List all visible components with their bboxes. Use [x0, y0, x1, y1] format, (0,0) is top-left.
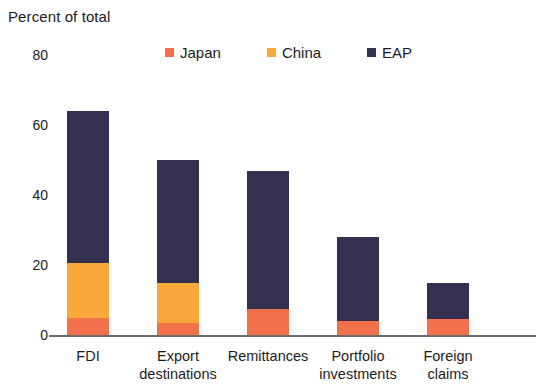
bar-segment-eap[interactable] — [157, 160, 199, 283]
category-label-line1: Remittances — [228, 348, 309, 364]
category-label-line1: Portfolio — [331, 348, 384, 364]
category-label-line1: Foreign — [423, 348, 472, 364]
bar-group[interactable]: Portfolioinvestments — [337, 0, 379, 392]
x-axis-category-label: Foreignclaims — [423, 347, 472, 383]
bar-segment-eap[interactable] — [427, 283, 469, 320]
chart-container: Percent of total Japan China EAP 0204060… — [0, 0, 541, 392]
bar-stack — [247, 171, 289, 336]
category-label-line2: investments — [319, 365, 396, 383]
y-axis-tick-label: 0 — [6, 328, 48, 342]
category-label-line2: destinations — [139, 365, 216, 383]
bar-group[interactable]: Exportdestinations — [157, 0, 199, 392]
bar-segment-eap[interactable] — [337, 237, 379, 321]
category-label-line1: Export — [157, 348, 199, 364]
y-axis-tick-label: 60 — [6, 118, 48, 132]
plot-area: 020406080 FDIExportdestinationsRemittanc… — [0, 0, 541, 392]
bar-group[interactable]: Foreignclaims — [427, 0, 469, 392]
category-label-line2: claims — [423, 365, 472, 383]
bar-segment-japan[interactable] — [427, 319, 469, 335]
bar-segment-japan[interactable] — [247, 309, 289, 335]
bar-stack — [427, 283, 469, 336]
x-axis-category-label: Remittances — [228, 347, 309, 365]
bar-stack — [67, 111, 109, 335]
bar-group[interactable]: Remittances — [247, 0, 289, 392]
y-axis-tick-label: 40 — [6, 188, 48, 202]
bar-group[interactable]: FDI — [67, 0, 109, 392]
y-axis: 020406080 — [0, 0, 48, 392]
bar-segment-eap[interactable] — [247, 171, 289, 309]
x-axis-category-label: FDI — [76, 347, 99, 365]
bar-segment-china[interactable] — [157, 283, 199, 323]
x-axis-category-label: Exportdestinations — [139, 347, 216, 383]
bar-segment-japan[interactable] — [337, 321, 379, 335]
bar-segment-japan[interactable] — [157, 323, 199, 335]
bar-segment-japan[interactable] — [67, 318, 109, 336]
y-axis-tick-label: 20 — [6, 258, 48, 272]
category-label-line1: FDI — [76, 348, 99, 364]
bar-segment-china[interactable] — [67, 263, 109, 317]
y-axis-tick-label: 80 — [6, 48, 48, 62]
bar-stack — [337, 237, 379, 335]
x-axis-category-label: Portfolioinvestments — [319, 347, 396, 383]
bar-stack — [157, 160, 199, 335]
bar-segment-eap[interactable] — [67, 111, 109, 263]
